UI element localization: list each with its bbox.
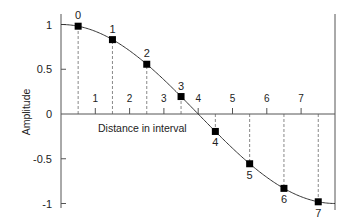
sample-marker — [315, 198, 322, 205]
interval-tick-label: 3 — [161, 93, 167, 104]
interval-tick-label: 7 — [298, 93, 304, 104]
y-tick-label: -0.5 — [33, 153, 52, 165]
sample-marker — [246, 160, 253, 167]
sample-label: 4 — [212, 136, 218, 148]
sample-label: 3 — [178, 80, 184, 92]
sample-marker — [75, 23, 82, 30]
sample-marker — [212, 128, 219, 135]
sample-label: 6 — [281, 193, 287, 205]
y-tick-label: -1 — [42, 198, 52, 210]
sample-marker — [143, 61, 150, 68]
sample-label: 2 — [144, 47, 150, 59]
sample-label: 5 — [247, 169, 253, 181]
sample-label: 0 — [75, 9, 81, 21]
y-tick-label: 1 — [46, 19, 52, 31]
interval-tick-label: 4 — [195, 93, 201, 104]
sample-marker — [178, 93, 185, 100]
interval-tick-label: 2 — [127, 93, 133, 104]
interval-tick-label: 1 — [93, 93, 99, 104]
interval-tick-label: 5 — [230, 93, 236, 104]
x-axis-title: Distance in interval — [98, 122, 187, 134]
interval-tick-label: 6 — [264, 93, 270, 104]
sample-marker — [280, 185, 287, 192]
sample-label: 7 — [315, 207, 321, 219]
axes — [61, 14, 335, 210]
y-tick-label: 0.5 — [37, 63, 52, 75]
y-axis-title: Amplitude — [20, 89, 32, 136]
sample-marker — [109, 36, 116, 43]
y-tick-label: 0 — [46, 108, 52, 120]
dct-basis-chart: 10.50-0.5-1123456701234567Distance in in… — [0, 0, 354, 224]
sample-label: 1 — [109, 23, 115, 35]
